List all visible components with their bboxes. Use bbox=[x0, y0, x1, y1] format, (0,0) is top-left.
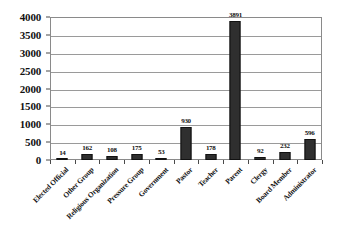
bar-group: 14 bbox=[50, 17, 75, 160]
bar-group: 108 bbox=[99, 17, 124, 160]
y-axis-tick-label: 500 bbox=[25, 137, 41, 148]
y-axis-tick-label: 2500 bbox=[20, 65, 41, 76]
bar-value-label: 232 bbox=[280, 143, 290, 150]
x-axis-category-label: Parent bbox=[224, 166, 244, 186]
bar-value-label: 596 bbox=[305, 130, 315, 137]
bar-group: 53 bbox=[149, 17, 174, 160]
bar-group: 92 bbox=[248, 17, 273, 160]
bar-group: 930 bbox=[174, 17, 199, 160]
bar-value-label: 162 bbox=[82, 145, 92, 152]
x-axis-category-label: Elected Official bbox=[32, 166, 70, 204]
x-axis-category-label: Teacher bbox=[197, 166, 219, 188]
bar-group: 178 bbox=[198, 17, 223, 160]
bar-group: 3891 bbox=[223, 17, 248, 160]
x-axis-category-label: Clergy bbox=[249, 166, 269, 186]
y-axis-tick-label: 3000 bbox=[20, 47, 41, 58]
bar-group: 162 bbox=[75, 17, 100, 160]
bar bbox=[180, 127, 191, 160]
bar bbox=[304, 139, 315, 160]
y-axis-tick-label: 2000 bbox=[20, 83, 41, 94]
bar-value-label: 53 bbox=[158, 149, 164, 156]
bar-value-label: 108 bbox=[107, 147, 117, 154]
x-axis-category-label: Pastor bbox=[175, 166, 194, 185]
y-axis-tick-label: 1500 bbox=[20, 101, 41, 112]
bar-value-label: 14 bbox=[59, 150, 65, 157]
bar-group: 232 bbox=[273, 17, 298, 160]
bar-value-label: 3891 bbox=[229, 12, 242, 19]
bar-value-label: 92 bbox=[257, 148, 263, 155]
y-axis-tick-label: 3500 bbox=[20, 29, 41, 40]
bar-value-label: 178 bbox=[206, 145, 216, 152]
bar bbox=[230, 21, 241, 160]
bar-value-label: 930 bbox=[181, 118, 191, 125]
y-axis-tick-label: 4000 bbox=[20, 12, 41, 23]
bar-chart: 05001000150020002500300035004000 1416210… bbox=[0, 0, 338, 252]
y-axis-tick-label: 1000 bbox=[20, 119, 41, 130]
bar-group: 175 bbox=[124, 17, 149, 160]
x-axis: Elected OfficialOther GroupReligious Org… bbox=[0, 160, 338, 252]
bars-layer: 1416210817553930178389192232596 bbox=[50, 17, 322, 160]
bar-group: 596 bbox=[297, 17, 322, 160]
y-axis: 05001000150020002500300035004000 bbox=[0, 17, 46, 160]
bar bbox=[279, 152, 290, 160]
bar-value-label: 175 bbox=[132, 145, 142, 152]
